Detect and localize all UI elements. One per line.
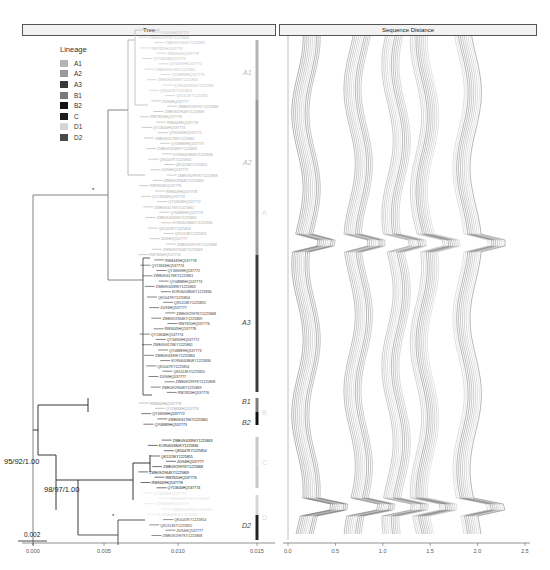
svg-text:QY34909HQ537772: QY34909HQ537772 — [154, 492, 187, 496]
svg-text:QY08889HQ537773: QY08889HQ537773 — [171, 142, 204, 146]
svg-text:RW7820HQ537776: RW7820HQ537776 — [178, 391, 209, 395]
svg-text:2.0: 2.0 — [474, 548, 482, 554]
svg-text:ZWE09/4176KY1225861: ZWE09/4176KY1225861 — [155, 137, 195, 141]
svg-text:ZWE09/4176KY1225861: ZWE09/4176KY1225861 — [170, 497, 210, 501]
svg-text:QK5047KY1225854: QK5047KY1225854 — [174, 518, 206, 522]
svg-text:RW7820HQ537776: RW7820HQ537776 — [179, 322, 210, 326]
svg-text:KOR06/0380KY1225836: KOR06/0380KY1225836 — [158, 513, 198, 517]
svg-text:QK5047KY1225854: QK5047KY1225854 — [159, 227, 191, 231]
svg-text:ZWE09/2964KY1225869: ZWE09/2964KY1225869 — [163, 248, 203, 252]
svg-text:RW8449HQ537778: RW8449HQ537778 — [166, 190, 197, 194]
svg-text:QK5113KY1225855: QK5113KY1225855 — [160, 524, 192, 528]
svg-text:ZWE09/2997KY1225868: ZWE09/2997KY1225868 — [163, 465, 203, 469]
svg-text:ZWE09/4176KY1225861: ZWE09/4176KY1225861 — [156, 68, 196, 72]
figure-canvas: Z0/94HQ537777ZWE09/2997KY1225868ZWE09/29… — [0, 0, 550, 570]
svg-text:RW8449HQ537778: RW8449HQ537778 — [167, 52, 198, 56]
svg-text:ZWE09/2997KY1225868: ZWE09/2997KY1225868 — [149, 36, 189, 40]
svg-text:QK5113KY1225855: QK5113KY1225855 — [174, 301, 206, 305]
svg-text:RW8449HQ537778: RW8449HQ537778 — [165, 259, 196, 263]
svg-text:QY34909HQ537772: QY34909HQ537772 — [167, 338, 200, 342]
svg-text:1.5: 1.5 — [426, 548, 434, 554]
svg-text:98/97/1.00: 98/97/1.00 — [44, 485, 79, 494]
svg-text:Z0/94HQ537777: Z0/94HQ537777 — [162, 168, 189, 172]
svg-text:QY13634HQ537774: QY13634HQ537774 — [154, 57, 187, 61]
svg-text:ZWE09/4339KY1225863: ZWE09/4339KY1225863 — [155, 354, 195, 358]
svg-text:RW8449HQ537778: RW8449HQ537778 — [150, 402, 181, 406]
svg-text:Z0/94HQ537777: Z0/94HQ537777 — [163, 31, 190, 35]
svg-text:QK5047KY1225854: QK5047KY1225854 — [158, 296, 190, 300]
svg-text:QY08889HQ537773: QY08889HQ537773 — [170, 211, 203, 215]
svg-text:QY13634HQ537774: QY13634HQ537774 — [152, 195, 185, 199]
svg-text:ZWE09/4339KY1225863: ZWE09/4339KY1225863 — [156, 285, 196, 289]
svg-text:Z0/94HQ537777: Z0/94HQ537777 — [177, 460, 204, 464]
svg-text:0.015: 0.015 — [250, 548, 264, 554]
svg-text:0.5: 0.5 — [331, 548, 339, 554]
svg-text:ZWE09/4339KY1225863: ZWE09/4339KY1225863 — [173, 439, 213, 443]
svg-text:KOR06/0380KY1225836: KOR06/0380KY1225836 — [171, 359, 211, 363]
svg-text:RW7820HQ537776: RW7820HQ537776 — [151, 115, 182, 119]
svg-text:A: A — [262, 209, 267, 216]
svg-text:QY34909HQ537772: QY34909HQ537772 — [168, 200, 201, 204]
svg-text:ZWE09/2997KY1225868: ZWE09/2997KY1225868 — [178, 105, 218, 109]
svg-text:QY34909HQ537772: QY34909HQ537772 — [152, 412, 185, 416]
svg-text:ZWE09/2997KY1225868: ZWE09/2997KY1225868 — [163, 534, 203, 538]
svg-text:QY08889HQ537773: QY08889HQ537773 — [170, 280, 203, 284]
svg-text:A1: A1 — [242, 69, 252, 76]
svg-text:QK5113KY1225855: QK5113KY1225855 — [175, 232, 207, 236]
svg-text:QY34909HQ537772: QY34909HQ537772 — [168, 269, 201, 273]
svg-text:95/92/1.00: 95/92/1.00 — [4, 457, 39, 466]
svg-text:0.010: 0.010 — [171, 548, 185, 554]
svg-text:ZWE09/2964KY1225869: ZWE09/2964KY1225869 — [164, 179, 204, 183]
svg-text:KOR06/0380KY1225836: KOR06/0380KY1225836 — [159, 444, 199, 448]
svg-text:Z0/94HQ537777: Z0/94HQ537777 — [176, 529, 203, 533]
svg-text:Z0/94HQ537777: Z0/94HQ537777 — [162, 100, 189, 104]
svg-text:ZWE09/2964KY1225869: ZWE09/2964KY1225869 — [162, 386, 202, 390]
svg-text:QY13634HQ537774: QY13634HQ537774 — [151, 333, 184, 337]
svg-text:QY08889HQ537773: QY08889HQ537773 — [154, 423, 187, 427]
svg-text:ZWE09/4176KY1225861: ZWE09/4176KY1225861 — [154, 206, 194, 210]
svg-text:ZWE09/2997KY1225868: ZWE09/2997KY1225868 — [177, 243, 217, 247]
svg-text:ZWE09/2997KY1225868: ZWE09/2997KY1225868 — [176, 312, 216, 316]
svg-text:KOR06/0380KY1225836: KOR06/0380KY1225836 — [173, 153, 213, 157]
svg-text:QY13634HQ537774: QY13634HQ537774 — [166, 407, 199, 411]
svg-text:QK5113KY1225855: QK5113KY1225855 — [176, 94, 208, 98]
svg-text:QK5113KY1225855: QK5113KY1225855 — [176, 163, 208, 167]
svg-text:ZWE09/2997KY1225868: ZWE09/2997KY1225868 — [176, 380, 216, 384]
svg-text:RW7820HQ537776: RW7820HQ537776 — [149, 253, 180, 257]
svg-text:A2: A2 — [242, 159, 252, 166]
svg-text:ZWE09/4339KY1225863: ZWE09/4339KY1225863 — [158, 78, 198, 82]
svg-text:QY34909HQ537772: QY34909HQ537772 — [169, 131, 202, 135]
svg-text:*: * — [112, 513, 115, 519]
svg-text:QK5047KY1225854: QK5047KY1225854 — [159, 158, 191, 162]
svg-text:A3: A3 — [241, 319, 251, 326]
svg-text:RW8449HQ537778: RW8449HQ537778 — [165, 327, 196, 331]
svg-text:RW7820HQ537776: RW7820HQ537776 — [165, 476, 196, 480]
svg-text:ZWE09/2997KY1225868: ZWE09/2997KY1225868 — [178, 174, 218, 178]
svg-text:Z0/94HQ537777: Z0/94HQ537777 — [161, 237, 188, 241]
svg-text:ZWE09/2964KY1225869: ZWE09/2964KY1225869 — [149, 471, 189, 475]
svg-text:RW8449HQ537778: RW8449HQ537778 — [167, 121, 198, 125]
svg-text:ZWE09/2964KY1225869: ZWE09/2964KY1225869 — [165, 41, 205, 45]
svg-text:C: C — [262, 459, 267, 466]
svg-text:QY13634HQ537774: QY13634HQ537774 — [151, 264, 184, 268]
svg-text:QY13634HQ537774: QY13634HQ537774 — [153, 126, 186, 130]
svg-text:0.000: 0.000 — [26, 548, 40, 554]
svg-text:ZWE09/2964KY1225869: ZWE09/2964KY1225869 — [165, 110, 205, 114]
svg-text:QY13634HQ537774: QY13634HQ537774 — [168, 486, 201, 490]
svg-text:ZWE09/4176KY1225861: ZWE09/4176KY1225861 — [153, 343, 193, 347]
svg-text:0.002: 0.002 — [24, 531, 41, 538]
svg-text:0.005: 0.005 — [97, 548, 111, 554]
svg-text:Z0/94HQ537777: Z0/94HQ537777 — [160, 306, 187, 310]
phylogenetic-tree — [33, 30, 160, 545]
svg-text:1.0: 1.0 — [379, 548, 387, 554]
svg-text:ZWE09/4339KY1225863: ZWE09/4339KY1225863 — [157, 147, 197, 151]
svg-text:2.5: 2.5 — [521, 548, 529, 554]
svg-text:QK5113KY1225855: QK5113KY1225855 — [161, 455, 193, 459]
svg-text:KOR06/0380KY1225836: KOR06/0380KY1225836 — [173, 221, 213, 225]
svg-text:QK5047KY1225854: QK5047KY1225854 — [175, 449, 207, 453]
svg-text:B: B — [262, 409, 267, 416]
svg-text:ZWE09/4176KY1225861: ZWE09/4176KY1225861 — [168, 418, 208, 422]
svg-text:ZWE09/4339KY1225863: ZWE09/4339KY1225863 — [157, 216, 197, 220]
svg-text:D: D — [262, 514, 267, 521]
svg-text:QK5113KY1225855: QK5113KY1225855 — [173, 370, 205, 374]
